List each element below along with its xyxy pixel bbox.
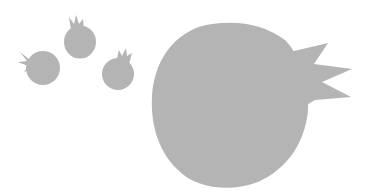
small-pomegranate-left bbox=[18, 51, 60, 85]
illustration-canvas bbox=[0, 0, 372, 196]
pomegranates-illustration bbox=[0, 0, 372, 196]
small-pomegranate-top bbox=[64, 15, 96, 59]
large-pomegranate bbox=[152, 23, 352, 188]
small-pomegranate-right bbox=[102, 48, 134, 90]
